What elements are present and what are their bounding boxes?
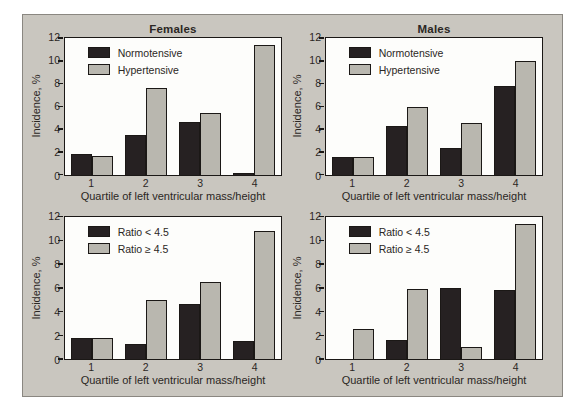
y-tick-mark [319,287,324,289]
y-tick-mark [319,60,324,62]
x-axis-label: Quartile of left ventricular mass/height [325,373,543,389]
bar-hypertensive-q2 [407,107,428,174]
chart-females-by-blood-pressure: Females Incidence, % 024681012 Normotens… [30,20,291,205]
bar-ratio-4-5-q4 [515,224,536,359]
legend-item-normotensive: Normotensive [349,47,444,59]
x-axis-label: Quartile of left ventricular mass/height [64,189,282,205]
legend-label: Ratio < 4.5 [379,226,430,238]
chart-males-by-blood-pressure: Males Incidence, % 024681012 Normotensiv… [291,20,552,205]
chart-bottom-left-by-ratio: Incidence, % 024681012 Ratio < 4.5Ratio … [30,205,291,390]
x-tick-label: 2 [404,361,410,373]
bar-hypertensive-q4 [515,61,536,175]
legend-item-ratio-4-5: Ratio < 4.5 [88,226,169,238]
legend-swatch-normotensive [349,47,371,58]
y-tick-mark [58,358,63,360]
x-tick-label: 4 [252,361,258,373]
y-axis-label: Incidence, % [291,216,304,361]
legend: NormotensiveHypertensive [349,47,444,76]
x-axis-ticks: 1234 [325,360,543,373]
y-tick-mark [58,216,63,218]
plot-area: Ratio < 4.5Ratio ≥ 4.5 [325,216,543,361]
y-tick-mark [319,83,324,85]
x-tick-label: 4 [513,361,519,373]
legend-label: Ratio ≥ 4.5 [379,243,430,255]
x-tick-label: 2 [143,361,149,373]
legend: NormotensiveHypertensive [88,47,183,76]
legend-label: Hypertensive [379,64,440,76]
bar-hypertensive-q3 [200,113,221,174]
x-tick-label: 3 [197,361,203,373]
x-tick-label: 4 [252,177,258,189]
y-tick-mark [58,174,63,176]
bar-ratio-4-5-q2 [146,300,167,359]
legend-swatch-hypertensive [349,64,371,75]
bar-normotensive-q4 [494,86,515,175]
y-axis-label: Incidence, % [30,37,43,176]
x-tick-label: 3 [458,361,464,373]
bar-ratio-4-5-q4 [494,290,515,359]
y-axis-label: Incidence, % [291,37,304,176]
bar-normotensive-q3 [179,122,200,174]
y-tick-mark [319,106,324,108]
y-tick-mark [58,37,63,39]
bar-hypertensive-q3 [461,123,482,174]
x-tick-label: 2 [404,177,410,189]
legend-swatch-hypertensive [88,64,110,75]
legend-item-ratio-4-5: Ratio ≥ 4.5 [88,243,169,255]
bar-hypertensive-q1 [92,156,113,174]
y-tick-label: 0 [54,170,60,182]
bar-normotensive-q2 [386,126,407,175]
bar-ratio-4-5-q2 [386,340,407,359]
x-tick-label: 1 [88,361,94,373]
x-axis-ticks: 1234 [64,176,282,189]
bar-normotensive-q1 [332,157,353,174]
x-tick-label: 1 [88,177,94,189]
bar-ratio-4-5-q2 [407,289,428,359]
legend-label: Ratio < 4.5 [118,226,169,238]
y-tick-mark [319,128,324,130]
legend-item-hypertensive: Hypertensive [349,64,444,76]
legend-item-normotensive: Normotensive [88,47,183,59]
y-tick-mark [58,83,63,85]
bar-ratio-4-5-q4 [254,231,275,359]
y-tick-label: 0 [54,354,60,366]
y-tick-mark [319,358,324,360]
figure: Females Incidence, % 024681012 Normotens… [0,0,582,415]
bar-ratio-4-5-q3 [200,282,221,359]
chart-title: Females [64,23,282,37]
legend-label: Normotensive [118,47,183,59]
bar-ratio-4-5-q1 [92,338,113,359]
plot-area: NormotensiveHypertensive [325,37,543,176]
y-tick-label: 0 [315,354,321,366]
legend-swatch-normotensive [88,47,110,58]
y-tick-mark [58,287,63,289]
y-tick-mark [58,128,63,130]
plot-area: Ratio < 4.5Ratio ≥ 4.5 [64,216,282,361]
bar-ratio-4-5-q2 [125,344,146,359]
bar-ratio-4-5-q3 [440,288,461,359]
legend-swatch-ratio-4-5 [349,226,371,237]
y-tick-mark [319,216,324,218]
chart-title: Males [325,23,543,37]
bar-ratio-4-5-q1 [71,338,92,359]
legend-item-hypertensive: Hypertensive [88,64,183,76]
legend-swatch-ratio-4-5 [88,226,110,237]
y-tick-mark [58,106,63,108]
y-tick-mark [319,240,324,242]
x-axis-label: Quartile of left ventricular mass/height [64,373,282,389]
x-tick-label: 1 [349,361,355,373]
bar-normotensive-q1 [71,154,92,174]
x-tick-label: 1 [349,177,355,189]
legend: Ratio < 4.5Ratio ≥ 4.5 [349,226,430,255]
y-tick-mark [319,37,324,39]
legend: Ratio < 4.5Ratio ≥ 4.5 [88,226,169,255]
y-tick-mark [319,174,324,176]
bar-normotensive-q2 [125,135,146,175]
bar-hypertensive-q1 [353,157,374,174]
bar-normotensive-q4 [233,173,254,175]
x-tick-label: 3 [197,177,203,189]
bar-ratio-4-5-q1 [353,329,374,359]
x-axis-ticks: 1234 [325,176,543,189]
y-tick-mark [319,263,324,265]
bar-hypertensive-q2 [146,88,167,174]
